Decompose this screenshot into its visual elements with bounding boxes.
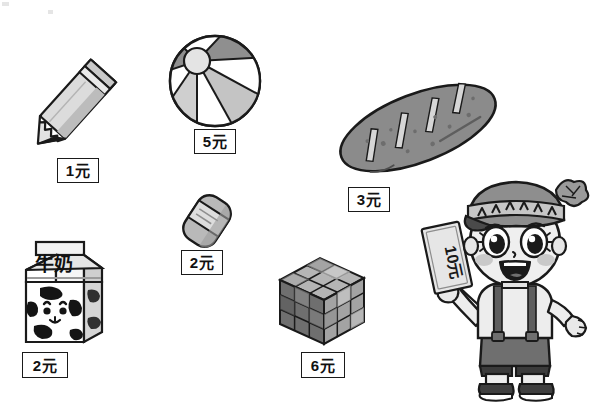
item-rubiks-cube [274, 254, 370, 350]
item-eraser [176, 190, 238, 252]
scan-artifact [48, 10, 53, 14]
milk-label-text: 牛奶 [35, 253, 73, 275]
price-tag-milk-carton: 2元 [22, 352, 68, 378]
character-boy: 10元 [424, 176, 600, 404]
price-tag-beach-ball: 5元 [194, 129, 236, 154]
price-tag-pencil: 1元 [57, 158, 99, 183]
price-tag-eraser: 2元 [181, 250, 223, 275]
price-tag-rubiks-cube: 6元 [301, 352, 345, 378]
item-bread [330, 68, 506, 188]
item-pencil [20, 52, 120, 164]
item-milk-carton: 牛奶 [14, 238, 116, 354]
price-tag-bread: 3元 [348, 187, 390, 212]
scan-artifact [2, 2, 9, 6]
worksheet-canvas: 1元 [0, 0, 601, 406]
item-beach-ball [167, 33, 263, 129]
